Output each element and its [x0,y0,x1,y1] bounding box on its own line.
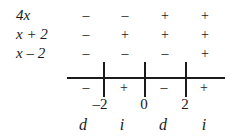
sign-cell: – [78,27,94,43]
product-sign: – [156,80,172,96]
row-label-4x: 4x [16,7,30,24]
sign-cell: – [157,46,173,62]
sign-cell: – [117,8,133,24]
sign-cell: + [157,27,173,43]
critical-point-marker [144,62,146,97]
sign-cell: – [78,8,94,24]
behavior-label: d [155,116,171,134]
behavior-label: d [75,116,91,134]
critical-point-label: 2 [173,96,197,113]
critical-point-marker [103,62,105,97]
row-label-x-plus-2: x + 2 [16,26,48,43]
product-sign: + [196,80,212,96]
sign-cell: + [197,46,213,62]
sign-cell: + [157,8,173,24]
sign-cell: + [117,27,133,43]
sign-cell: + [197,8,213,24]
behavior-label: i [114,116,130,134]
critical-point-marker [185,62,187,97]
critical-point-label: 0 [132,96,156,113]
sign-cell: – [78,46,94,62]
product-sign: + [116,80,132,96]
behavior-label: i [196,116,212,134]
sign-cell: – [117,46,133,62]
number-line [67,77,225,79]
critical-point-label: –2 [88,96,112,113]
row-label-x-minus-2: x – 2 [16,45,45,62]
product-sign: – [78,80,94,96]
sign-cell: + [197,27,213,43]
